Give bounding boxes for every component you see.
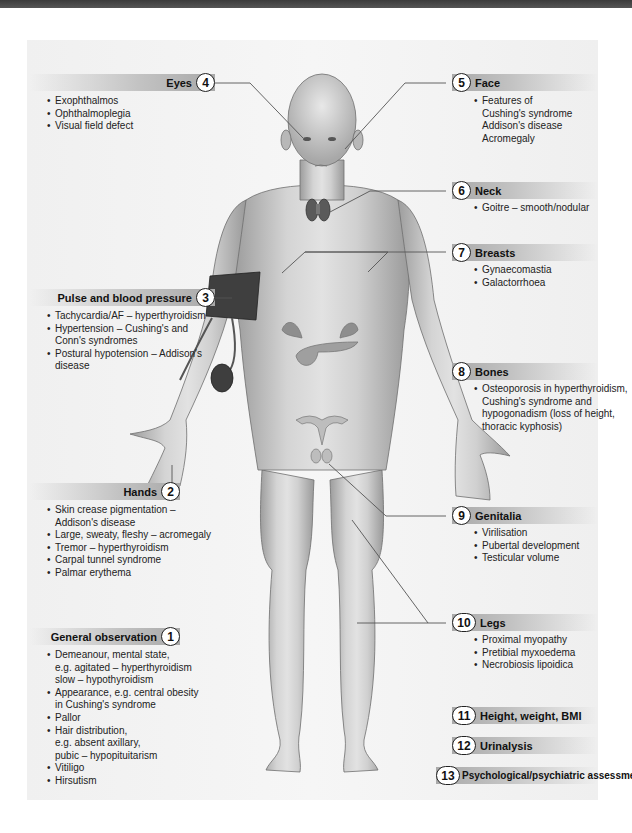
section-title-eyes: Eyes [162, 77, 196, 89]
section-number-general-observation: 1 [161, 627, 180, 646]
section-number-face: 5 [452, 73, 471, 92]
section-number-neck: 6 [452, 181, 471, 200]
list-item: Galactorrhoea [474, 277, 551, 290]
section-title-general-observation: General observation [47, 631, 161, 643]
list-item: Gynaecomastia [474, 264, 551, 277]
section-header-hands: Hands 2 [30, 483, 180, 500]
section-number-pulse: 3 [196, 288, 215, 307]
bp-bulb [211, 364, 233, 392]
section-header-urinalysis: 12 Urinalysis [452, 737, 598, 754]
list-item: Osteoporosis in hyperthyroidism, [474, 383, 628, 396]
list-item: thoracic kyphosis) [474, 421, 628, 434]
left-leg [260, 470, 314, 772]
list-face: Features of Cushing's syndrome Addison's… [474, 95, 572, 145]
list-item: Hair distribution, [47, 725, 198, 738]
list-general-observation: Demeanour, mental state, e.g. agitated –… [47, 649, 198, 788]
list-item: Cushing's syndrome [474, 108, 572, 121]
list-item: in Cushing's syndrome [47, 699, 198, 712]
list-breasts: Gynaecomastia Galactorrhoea [474, 264, 551, 289]
section-title-face: Face [471, 77, 504, 89]
head [288, 74, 356, 166]
section-number-legs: 10 [452, 613, 476, 632]
section-header-breasts: 7 Breasts [452, 244, 598, 261]
section-title-legs: Legs [476, 617, 510, 629]
section-title-neck: Neck [471, 185, 505, 197]
list-item: Tremor – hyperthyroidism [47, 542, 211, 555]
list-item: Testicular volume [474, 552, 579, 565]
section-number-breasts: 7 [452, 243, 471, 262]
list-item: Ophthalmoplegia [47, 108, 133, 121]
list-bones: Osteoporosis in hyperthyroidism, Cushing… [474, 383, 628, 433]
section-number-hands: 2 [161, 482, 180, 501]
left-ear [281, 130, 291, 150]
section-title-bones: Bones [471, 366, 513, 378]
list-item: Necrobiosis lipoidica [474, 659, 575, 672]
right-ear [353, 130, 363, 150]
list-genitalia: Virilisation Pubertal development Testic… [474, 527, 579, 565]
list-item: hypogonadism (loss of height, [474, 408, 628, 421]
list-item: Palmar erythema [47, 567, 211, 580]
section-number-eyes: 4 [196, 73, 215, 92]
section-header-eyes: Eyes 4 [30, 74, 215, 91]
list-item: Visual field defect [47, 120, 133, 133]
list-item: Addison's disease [474, 120, 572, 133]
list-item: Hirsutism [47, 775, 198, 788]
list-legs: Proximal myopathy Pretibial myxoedema Ne… [474, 634, 575, 672]
section-header-psychological-assessment: 13 Psychological/psychiatric assessment [436, 767, 598, 784]
list-item: e.g. absent axillary, [47, 737, 198, 750]
section-number-height-weight-bmi: 11 [452, 706, 476, 725]
list-item: Appearance, e.g. central obesity [47, 687, 198, 700]
list-item: Exophthalmos [47, 95, 133, 108]
section-header-height-weight-bmi: 11 Height, weight, BMI [452, 707, 598, 724]
list-item: Carpal tunnel syndrome [47, 554, 211, 567]
right-leg [330, 470, 384, 772]
list-item: Large, sweaty, fleshy – acromegaly [47, 529, 211, 542]
section-title-genitalia: Genitalia [471, 510, 525, 522]
list-item: e.g. agitated – hyperthyroidism [47, 662, 198, 675]
list-item: slow – hypothyroidism [47, 674, 198, 687]
list-item: Virilisation [474, 527, 579, 540]
section-title-hands: Hands [119, 486, 161, 498]
list-item: Tachycardia/AF – hyperthyroidism [47, 310, 206, 323]
section-header-bones: 8 Bones [452, 363, 598, 380]
list-item: Goitre – smooth/nodular [474, 202, 589, 215]
list-pulse: Tachycardia/AF – hyperthyroidism Hyperte… [47, 310, 206, 373]
list-item: Proximal myopathy [474, 634, 575, 647]
list-item: Hypertension – Cushing's and [47, 323, 206, 336]
section-title-psychological-assessment: Psychological/psychiatric assessment [460, 770, 632, 781]
list-item: pubic – hypopituitarism [47, 750, 198, 763]
list-item: Pretibial myxoedema [474, 647, 575, 660]
list-neck: Goitre – smooth/nodular [474, 202, 589, 215]
list-item: Addison's disease [47, 517, 211, 530]
list-item: Postural hypotension – Addison's [47, 348, 206, 361]
list-item: Pubertal development [474, 540, 579, 553]
section-number-genitalia: 9 [452, 506, 471, 525]
section-title-breasts: Breasts [471, 247, 519, 259]
section-header-genitalia: 9 Genitalia [452, 507, 598, 524]
section-title-height-weight-bmi: Height, weight, BMI [476, 710, 585, 722]
section-header-face: 5 Face [452, 74, 598, 91]
list-item: Features of [474, 95, 572, 108]
section-header-neck: 6 Neck [452, 182, 598, 199]
list-item: Demeanour, mental state, [47, 649, 198, 662]
section-number-psychological-assessment: 13 [436, 766, 460, 785]
list-item: Skin crease pigmentation – [47, 504, 211, 517]
section-number-bones: 8 [452, 362, 471, 381]
list-item: disease [47, 360, 206, 373]
section-title-pulse: Pulse and blood pressure [54, 292, 196, 304]
section-header-legs: 10 Legs [452, 614, 598, 631]
list-eyes: Exophthalmos Ophthalmoplegia Visual fiel… [47, 95, 133, 133]
list-item: Conn's syndromes [47, 335, 206, 348]
list-item: Vitiligo [47, 762, 198, 775]
section-header-pulse: Pulse and blood pressure 3 [30, 289, 215, 306]
list-hands: Skin crease pigmentation – Addison's dis… [47, 504, 211, 580]
list-item: Pallor [47, 712, 198, 725]
section-header-general-observation: General observation 1 [30, 628, 180, 645]
list-item: Cushing's syndrome and [474, 396, 628, 409]
list-item: Acromegaly [474, 133, 572, 146]
section-number-urinalysis: 12 [452, 736, 476, 755]
section-title-urinalysis: Urinalysis [476, 740, 537, 752]
